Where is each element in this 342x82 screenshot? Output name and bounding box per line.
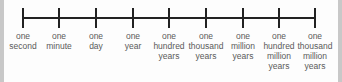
tick-one-hundred-years [168, 8, 170, 28]
label-one-thousand-million-years: one thousand million years [293, 31, 337, 71]
tick-one-minute [58, 8, 60, 28]
tick-one-year [132, 8, 134, 28]
label-line: years [293, 61, 337, 71]
tick-one-thousand-million-years [314, 8, 316, 28]
right-border [338, 0, 342, 82]
tick-one-hundred-million-years [278, 8, 280, 28]
label-line: thousand [293, 41, 337, 51]
label-line: one [293, 31, 337, 41]
timeline-diagram: one second one minute one day one year o… [0, 0, 342, 82]
tick-one-thousand-years [205, 8, 207, 28]
label-line: million [293, 51, 337, 61]
tick-one-day [95, 8, 97, 28]
tick-one-million-years [242, 8, 244, 28]
tick-one-second [22, 8, 24, 28]
